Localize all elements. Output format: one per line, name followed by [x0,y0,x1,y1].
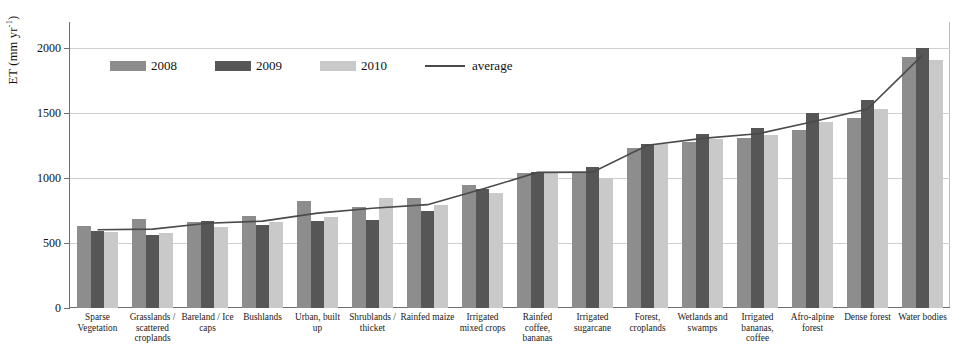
legend-label: 2008 [151,58,177,74]
chart-figure: ET (mm yr-1) 0500100015002000 2008200920… [0,0,967,363]
legend-item-2008: 2008 [110,58,177,74]
x-category-label: Urban, built up [290,312,345,333]
x-category-label: Irrigated bananas, coffee [730,312,785,344]
x-category-label: Water bodies [895,312,950,323]
y-tick-label: 500 [43,236,61,251]
x-category-label: Bushlands [235,312,290,323]
x-category-label: Sparse Vegetation [70,312,125,333]
x-category-label: Bareland / Ice caps [180,312,235,333]
legend-item-2010: 2010 [320,58,387,74]
y-tick-label: 1000 [37,171,61,186]
legend-swatch-2009 [215,61,251,71]
x-category-label: Rainfed maize [400,312,455,323]
legend-item-average: average [425,58,512,74]
y-axis-title: ET (mm yr-1) [4,0,21,120]
x-category-label: Dense forest [840,312,895,323]
y-tick [64,308,70,309]
chart-legend: 200820092010average [110,58,550,74]
legend-label: 2009 [256,58,282,74]
x-axis-category-labels: Sparse VegetationGrasslands / scattered … [70,312,950,362]
y-tick-label: 2000 [37,41,61,56]
x-category-label: Rainfed coffee, bananas [510,312,565,344]
x-category-label: Shrublands / thicket [345,312,400,333]
legend-swatch-2008 [110,61,146,71]
legend-label: 2010 [361,58,387,74]
y-tick-label: 0 [55,301,61,316]
legend-label: average [472,58,512,74]
x-category-label: Forest, croplands [620,312,675,333]
legend-swatch-2010 [320,61,356,71]
y-tick-label: 1500 [37,106,61,121]
legend-item-2009: 2009 [215,58,282,74]
x-category-label: Wetlands and swamps [675,312,730,333]
x-category-label: Grasslands / scattered croplands [125,312,180,344]
x-category-label: Irrigated mixed crops [455,312,510,333]
x-category-label: Afro-alpine forest [785,312,840,333]
x-category-label: Irrigated sugarcane [565,312,620,333]
legend-line-marker [425,65,465,67]
